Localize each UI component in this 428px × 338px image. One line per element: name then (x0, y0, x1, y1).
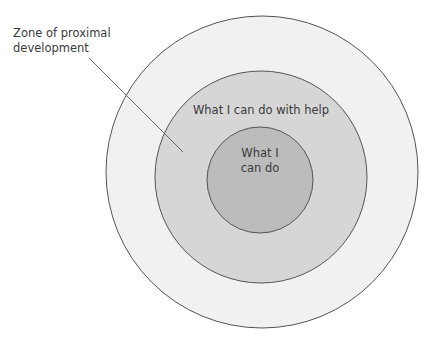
middle-label: What I can do with help (181, 103, 341, 118)
inner-circle (207, 127, 313, 233)
inner-label: What I can do (220, 146, 300, 176)
zpd-label-line1: Zone of proximal (13, 26, 111, 41)
zpd-label: Zone of proximal development (13, 26, 111, 56)
inner-label-line2: can do (220, 161, 300, 176)
zpd-label-line2: development (13, 41, 111, 56)
inner-label-line1: What I (220, 146, 300, 161)
